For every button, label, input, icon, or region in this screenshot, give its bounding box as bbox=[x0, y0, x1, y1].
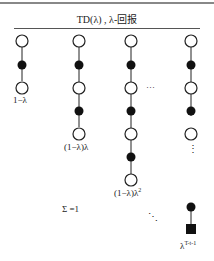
action-node bbox=[75, 61, 84, 70]
state-node bbox=[16, 82, 28, 94]
state-node bbox=[125, 174, 137, 186]
state-node bbox=[185, 35, 197, 47]
weight-label-2: (1−λ)λ bbox=[64, 142, 88, 152]
action-node bbox=[127, 61, 136, 70]
state-node bbox=[185, 128, 197, 140]
state-node bbox=[125, 82, 137, 94]
action-node bbox=[127, 107, 136, 116]
state-node bbox=[125, 35, 137, 47]
state-node bbox=[73, 35, 85, 47]
weight-label-1: 1−λ bbox=[13, 95, 27, 105]
sum-label: Σ =1 bbox=[62, 204, 79, 214]
state-node bbox=[16, 35, 28, 47]
action-node bbox=[127, 153, 136, 162]
weight-label-4: λT-t-1 bbox=[180, 240, 196, 251]
backup-diagram bbox=[0, 0, 214, 261]
state-node bbox=[73, 82, 85, 94]
state-node bbox=[73, 128, 85, 140]
weight-label-3: (1−λ)λ2 bbox=[114, 187, 141, 198]
state-node bbox=[185, 82, 197, 94]
action-node bbox=[75, 107, 84, 116]
action-node bbox=[18, 61, 27, 70]
horizontal-ellipsis: … bbox=[146, 80, 155, 90]
vertical-ellipsis: ⋮ bbox=[188, 143, 198, 154]
diagonal-ellipsis: ⋱ bbox=[148, 211, 158, 222]
action-node bbox=[187, 203, 196, 212]
terminal-node bbox=[186, 224, 196, 234]
action-node bbox=[187, 107, 196, 116]
state-node bbox=[125, 128, 137, 140]
action-node bbox=[187, 61, 196, 70]
